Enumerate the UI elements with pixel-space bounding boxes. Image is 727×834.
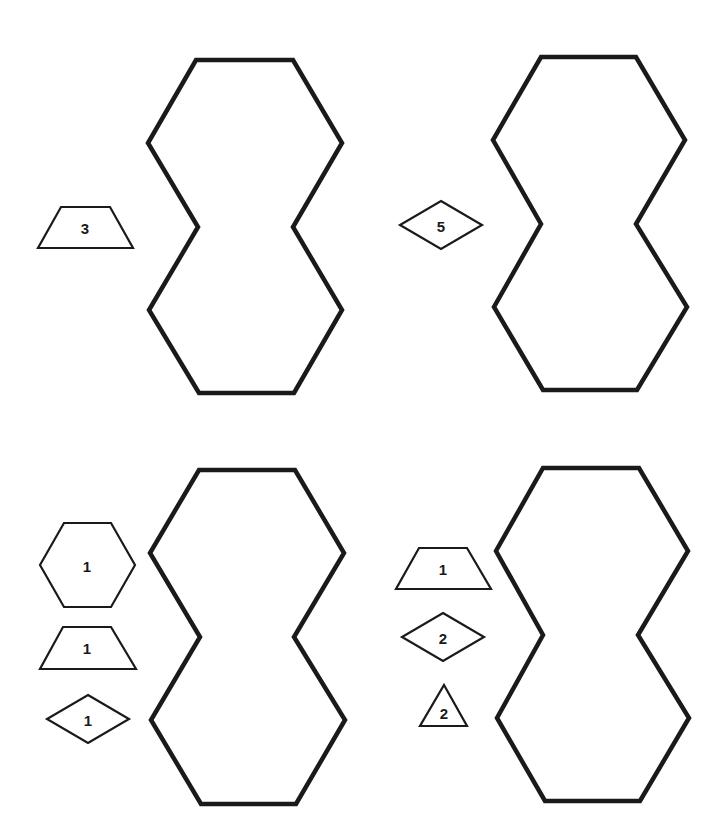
piece-trapezoid: 3 [38, 207, 133, 248]
piece-count: 1 [84, 712, 92, 729]
piece-count: 2 [440, 705, 448, 722]
piece-triangle: 2 [420, 685, 467, 726]
double-hexagon-outline [493, 57, 687, 390]
double-hexagon-outline [148, 60, 342, 393]
puzzle-bottom-left: 1 1 1 [40, 470, 345, 804]
puzzle-top-left: 3 [38, 60, 342, 393]
piece-count: 5 [437, 218, 445, 235]
puzzle-top-right: 5 [400, 57, 687, 390]
piece-hexagon: 1 [40, 523, 135, 607]
piece-count: 1 [439, 561, 447, 578]
piece-count: 1 [83, 640, 91, 657]
piece-trapezoid: 1 [396, 548, 491, 589]
piece-trapezoid: 1 [40, 627, 136, 669]
puzzle-bottom-right: 1 2 2 [396, 468, 689, 801]
piece-rhombus: 2 [402, 613, 484, 661]
piece-count: 1 [83, 558, 91, 575]
piece-rhombus: 5 [400, 201, 482, 249]
pattern-block-worksheet: 3 5 1 1 1 1 2 [0, 0, 727, 834]
piece-rhombus: 1 [47, 695, 129, 743]
piece-count: 3 [81, 220, 89, 237]
double-hexagon-outline [150, 470, 345, 804]
piece-count: 2 [439, 630, 447, 647]
double-hexagon-outline [496, 468, 689, 801]
